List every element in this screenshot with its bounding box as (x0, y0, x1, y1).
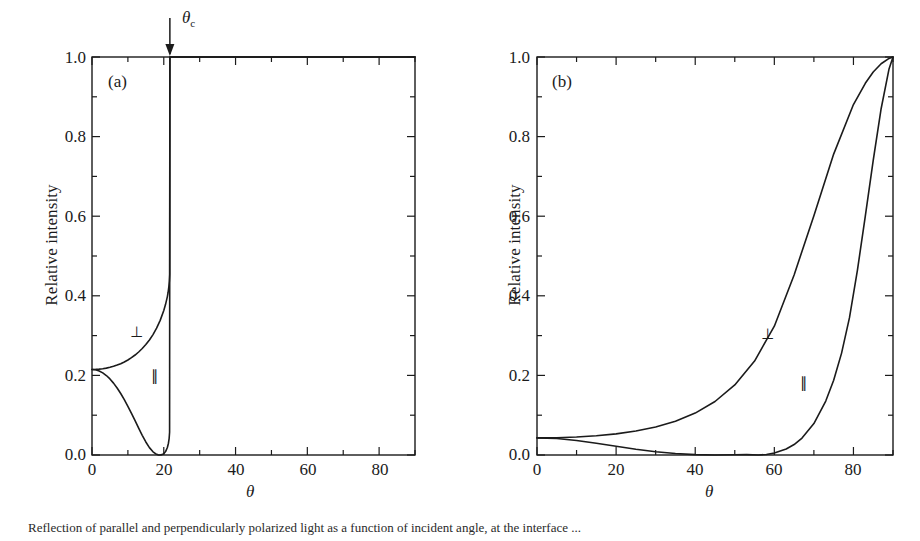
plot-area-a (0, 0, 460, 512)
plot-area-b (460, 0, 920, 512)
figure-caption: Reflection of parallel and perpendicular… (28, 519, 908, 541)
curve-perpendicular (537, 57, 893, 438)
critical-angle-arrow-icon (165, 18, 174, 56)
curve-perpendicular (92, 57, 415, 369)
curve-parallel (537, 57, 893, 455)
panel-b: Relative intensity (b) 1.0 0.8 0.6 0.4 0… (460, 0, 920, 512)
panel-a: Relative intensity (a) θc 1.0 0.8 0.6 0.… (0, 0, 460, 512)
figure-container: Relative intensity (a) θc 1.0 0.8 0.6 0.… (0, 0, 920, 541)
curve-parallel (92, 57, 415, 455)
